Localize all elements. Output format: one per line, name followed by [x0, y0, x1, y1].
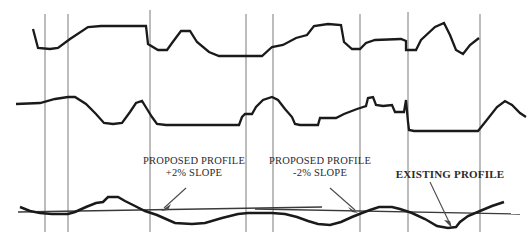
label-proposed-profile-minus-slope: PROPOSED PROFILE -2% SLOPE — [258, 155, 382, 180]
profile-drawing-canvas — [0, 0, 529, 244]
station-gridlines — [45, 10, 480, 232]
label-proposed-plus-line1: PROPOSED PROFILE — [132, 155, 256, 167]
label-proposed-plus-line2: +2% SLOPE — [132, 167, 256, 179]
middle-profile-band — [16, 97, 526, 131]
label-proposed-minus-line1: PROPOSED PROFILE — [258, 155, 382, 167]
leader-proposed-minus — [330, 188, 358, 213]
label-existing-line1: EXISTING PROFILE — [388, 168, 512, 181]
label-proposed-minus-line2: -2% SLOPE — [258, 167, 382, 179]
leader-existing — [430, 182, 452, 228]
profile-diagram: PROPOSED PROFILE +2% SLOPE PROPOSED PROF… — [0, 0, 529, 244]
label-existing-profile: EXISTING PROFILE — [388, 168, 512, 181]
upper-profile-band — [33, 23, 479, 56]
label-proposed-profile-plus-slope: PROPOSED PROFILE +2% SLOPE — [132, 155, 256, 180]
leader-proposed-plus — [161, 188, 186, 211]
